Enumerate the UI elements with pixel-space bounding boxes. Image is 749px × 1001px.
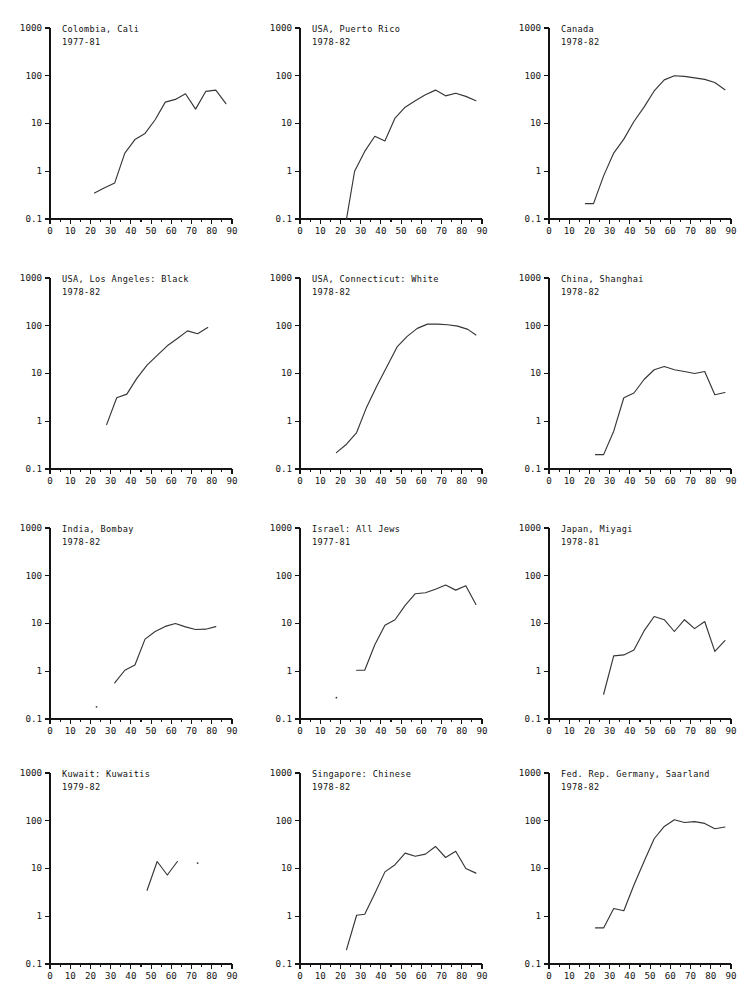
- y-tick-label: 1: [536, 415, 542, 426]
- y-tick-label: 1: [286, 415, 292, 426]
- x-tick-label: 20: [85, 225, 96, 236]
- x-tick-label: 20: [584, 225, 595, 236]
- x-tick-label: 0: [47, 970, 53, 981]
- isolated-data-point: [197, 862, 199, 864]
- data-series-line: [596, 367, 725, 455]
- chart-panel: 0.111010010000102030405060708090Canada19…: [499, 0, 749, 250]
- panel-period: 1978-82: [561, 37, 600, 47]
- x-tick-label: 50: [395, 225, 406, 236]
- x-tick-label: 20: [85, 970, 96, 981]
- panel-period: 1978-81: [561, 537, 600, 547]
- x-tick-label: 30: [105, 970, 116, 981]
- x-tick-label: 20: [334, 225, 345, 236]
- x-tick-label: 10: [65, 970, 76, 981]
- x-tick-label: 0: [47, 225, 53, 236]
- y-tick-label: 100: [25, 815, 42, 826]
- x-tick-label: 10: [65, 225, 76, 236]
- y-tick-label: 100: [25, 70, 42, 81]
- chart-panel: 0.111010010000102030405060708090USA, Pue…: [250, 0, 500, 250]
- y-tick-label: 10: [281, 368, 292, 379]
- y-tick-label: 1000: [269, 522, 291, 533]
- y-tick-label: 1000: [519, 272, 541, 283]
- y-tick-label: 1: [536, 165, 542, 176]
- x-tick-label: 70: [685, 725, 696, 736]
- y-tick-label: 1: [286, 910, 292, 921]
- x-tick-label: 70: [186, 725, 197, 736]
- y-tick-label: 1000: [20, 272, 42, 283]
- data-series-line: [586, 76, 726, 204]
- x-tick-label: 50: [146, 225, 157, 236]
- y-tick-label: 1: [536, 910, 542, 921]
- x-tick-label: 90: [476, 225, 487, 236]
- x-tick-label: 10: [564, 725, 575, 736]
- x-tick-label: 0: [546, 225, 552, 236]
- panel-period: 1978-82: [62, 537, 101, 547]
- panel-period: 1978-82: [312, 37, 351, 47]
- x-tick-label: 50: [395, 475, 406, 486]
- y-tick-label: 0.1: [25, 713, 42, 724]
- y-tick-label: 10: [530, 118, 541, 129]
- x-tick-label: 0: [297, 475, 303, 486]
- data-series-line: [147, 862, 177, 891]
- y-tick-label: 1: [36, 665, 42, 676]
- x-tick-label: 80: [206, 970, 217, 981]
- y-tick-label: 1: [36, 165, 42, 176]
- x-tick-label: 30: [604, 225, 615, 236]
- panel-title: China, Shanghai: [561, 274, 644, 284]
- x-tick-label: 80: [705, 225, 716, 236]
- x-tick-label: 60: [665, 725, 676, 736]
- x-tick-label: 20: [334, 475, 345, 486]
- x-tick-label: 80: [206, 475, 217, 486]
- x-tick-label: 90: [726, 970, 737, 981]
- y-tick-label: 0.1: [25, 213, 42, 224]
- chart-panel: 0.111010010000102030405060708090China, S…: [499, 250, 749, 500]
- y-tick-label: 10: [31, 863, 42, 874]
- y-tick-label: 1: [36, 910, 42, 921]
- x-tick-label: 30: [604, 475, 615, 486]
- figure-root: 0.111010010000102030405060708090Colombia…: [0, 0, 749, 1001]
- x-tick-label: 40: [375, 475, 386, 486]
- x-tick-label: 0: [546, 475, 552, 486]
- x-tick-label: 80: [705, 725, 716, 736]
- y-tick-label: 1000: [519, 522, 541, 533]
- x-tick-label: 40: [625, 725, 636, 736]
- y-tick-label: 1: [286, 665, 292, 676]
- data-series-line: [604, 617, 725, 695]
- chart-panel: 0.111010010000102030405060708090Singapor…: [250, 745, 500, 1001]
- y-tick-label: 0.1: [525, 958, 542, 969]
- x-tick-label: 50: [395, 970, 406, 981]
- x-tick-label: 50: [395, 725, 406, 736]
- data-series-line: [356, 585, 475, 670]
- panel-title: Canada: [561, 24, 594, 34]
- x-tick-label: 0: [546, 970, 552, 981]
- x-tick-label: 50: [645, 725, 656, 736]
- data-series-line: [107, 327, 208, 424]
- x-tick-label: 60: [166, 225, 177, 236]
- x-tick-label: 10: [314, 225, 325, 236]
- y-tick-label: 100: [525, 815, 542, 826]
- y-tick-label: 100: [525, 320, 542, 331]
- y-tick-label: 100: [275, 320, 292, 331]
- panel-title: Israel: All Jews: [312, 524, 400, 534]
- x-tick-label: 10: [314, 475, 325, 486]
- x-tick-label: 90: [226, 225, 237, 236]
- x-tick-label: 20: [334, 970, 345, 981]
- y-tick-label: 100: [275, 70, 292, 81]
- y-tick-label: 1: [286, 165, 292, 176]
- x-tick-label: 70: [186, 970, 197, 981]
- x-tick-label: 30: [604, 725, 615, 736]
- x-tick-label: 50: [645, 225, 656, 236]
- chart-panel: 0.111010010000102030405060708090Israel: …: [250, 500, 500, 745]
- y-tick-label: 0.1: [25, 463, 42, 474]
- y-tick-label: 0.1: [525, 713, 542, 724]
- x-tick-label: 90: [726, 725, 737, 736]
- x-tick-label: 30: [105, 225, 116, 236]
- x-tick-label: 40: [125, 970, 136, 981]
- panel-title: Fed. Rep. Germany, Saarland: [561, 769, 710, 779]
- y-tick-label: 1000: [20, 767, 42, 778]
- x-tick-label: 70: [436, 970, 447, 981]
- y-tick-label: 0.1: [275, 958, 292, 969]
- x-tick-label: 10: [65, 725, 76, 736]
- data-series-line: [346, 90, 475, 219]
- x-tick-label: 80: [456, 225, 467, 236]
